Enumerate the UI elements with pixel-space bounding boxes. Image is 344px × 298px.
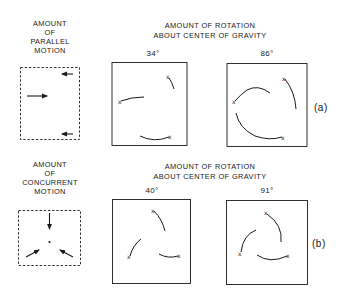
svg-text:x: x <box>281 134 285 141</box>
svg-text:x: x <box>282 75 286 82</box>
angle-label-40: 40° <box>137 186 167 195</box>
label-line: MOTION <box>8 187 92 196</box>
angle-label-91: 91° <box>252 186 282 195</box>
svg-text:x: x <box>168 133 172 140</box>
concurrent-motion-label: AMOUNT OF CONCURRENT MOTION <box>8 160 92 196</box>
svg-text:x: x <box>166 73 170 80</box>
svg-text:x: x <box>127 253 131 260</box>
parallel-motion-diagram: x x x x x x x x x x x x <box>0 0 344 298</box>
rotation-header-b: AMOUNT OF ROTATION ABOUT CENTER OF GRAVI… <box>140 162 280 181</box>
svg-text:x: x <box>118 98 122 105</box>
header-line: AMOUNT OF ROTATION <box>140 162 280 172</box>
svg-text:x: x <box>232 98 236 105</box>
label-line: AMOUNT <box>8 160 92 169</box>
svg-text:x: x <box>286 252 290 259</box>
svg-text:x: x <box>177 252 181 259</box>
svg-text:x: x <box>264 209 268 216</box>
header-line: ABOUT CENTER OF GRAVITY <box>140 172 280 182</box>
label-line: OF <box>8 169 92 178</box>
svg-text:x: x <box>151 207 155 214</box>
svg-text:x: x <box>238 250 242 257</box>
row-a-tag: (a) <box>314 102 328 113</box>
row-b-tag: (b) <box>312 238 326 249</box>
label-line: CONCURRENT <box>8 178 92 187</box>
